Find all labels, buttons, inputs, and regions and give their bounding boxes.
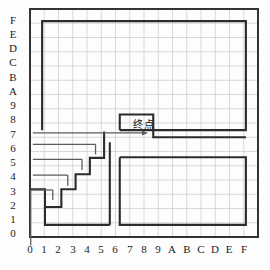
maze-canvas [0, 0, 270, 270]
goal-label: 终点 [133, 119, 154, 130]
wall-staircase [30, 132, 104, 208]
search-path [31, 133, 144, 246]
wall-lower-left-wall [45, 207, 110, 225]
maze-figure: F E D C B A 9 8 7 6 5 4 3 2 1 0 0 1 2 3 … [0, 0, 270, 270]
wall-lower-right-room [120, 157, 246, 225]
